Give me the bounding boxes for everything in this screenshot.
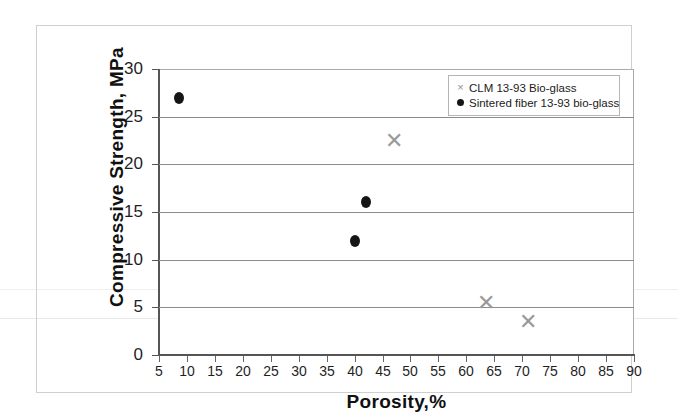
x-axis-tick-label: 65 bbox=[480, 363, 508, 379]
x-axis-tick-label: 55 bbox=[424, 363, 452, 379]
gridline bbox=[159, 307, 634, 308]
y-axis-tick bbox=[152, 212, 159, 213]
x-axis-tick-label: 15 bbox=[201, 363, 229, 379]
x-axis-tick-label: 70 bbox=[508, 363, 536, 379]
x-axis-tick bbox=[159, 356, 160, 362]
x-axis-tick-label: 20 bbox=[229, 363, 257, 379]
data-point-marker-dot bbox=[350, 235, 360, 247]
x-axis-tick bbox=[606, 356, 607, 362]
x-axis-tick-label: 90 bbox=[620, 363, 648, 379]
figure-frame: 0510152025305101520253035404550556065707… bbox=[36, 25, 632, 393]
y-axis-tick bbox=[152, 117, 159, 118]
x-axis-tick bbox=[522, 356, 523, 362]
data-point-marker-cross: ✕ bbox=[476, 291, 496, 315]
x-axis-tick bbox=[466, 356, 467, 362]
x-axis-tick bbox=[243, 356, 244, 362]
x-axis-tick-label: 25 bbox=[257, 363, 285, 379]
x-axis-title: Porosity,% bbox=[159, 391, 634, 413]
x-axis-line bbox=[159, 354, 635, 356]
gridline bbox=[159, 164, 634, 165]
x-axis-tick bbox=[410, 356, 411, 362]
legend-item-label: CLM 13-93 Bio-glass bbox=[467, 82, 576, 94]
x-axis-tick-label: 35 bbox=[313, 363, 341, 379]
x-axis-tick-label: 60 bbox=[452, 363, 480, 379]
x-axis-tick bbox=[438, 356, 439, 362]
x-axis-tick-label: 80 bbox=[564, 363, 592, 379]
gridline bbox=[159, 260, 634, 261]
x-axis-tick bbox=[494, 356, 495, 362]
x-axis-tick bbox=[327, 356, 328, 362]
x-axis-tick-label: 40 bbox=[341, 363, 369, 379]
x-axis-tick bbox=[299, 356, 300, 362]
x-axis-tick-label: 30 bbox=[285, 363, 313, 379]
cross-marker-icon: × bbox=[454, 82, 467, 93]
y-axis-tick bbox=[152, 355, 159, 356]
legend-item-sintered-fiber[interactable]: Sintered fiber 13-93 bio-glass bbox=[454, 95, 614, 110]
x-axis-tick bbox=[383, 356, 384, 362]
x-axis-tick bbox=[271, 356, 272, 362]
y-axis-title: Compressive Strength, MPa bbox=[106, 34, 128, 320]
x-axis-tick bbox=[578, 356, 579, 362]
legend-item-clm[interactable]: × CLM 13-93 Bio-glass bbox=[454, 80, 614, 95]
y-axis-tick bbox=[152, 307, 159, 308]
y-axis-tick-label: 0 bbox=[109, 345, 143, 365]
x-axis-tick bbox=[187, 356, 188, 362]
y-axis-tick bbox=[152, 164, 159, 165]
legend-item-label: Sintered fiber 13-93 bio-glass bbox=[467, 97, 619, 109]
dot-marker-icon bbox=[454, 99, 467, 106]
data-point-marker-cross: ✕ bbox=[384, 129, 404, 153]
data-point-marker-cross: ✕ bbox=[518, 310, 538, 334]
x-axis-tick bbox=[550, 356, 551, 362]
x-axis-tick bbox=[215, 356, 216, 362]
x-axis-tick-label: 50 bbox=[396, 363, 424, 379]
x-axis-tick-label: 45 bbox=[369, 363, 397, 379]
y-axis-tick bbox=[152, 260, 159, 261]
y-axis-tick bbox=[152, 69, 159, 70]
x-axis-tick-label: 85 bbox=[592, 363, 620, 379]
gridline bbox=[159, 212, 634, 213]
x-axis-tick-label: 75 bbox=[536, 363, 564, 379]
data-point-marker-dot bbox=[174, 92, 184, 104]
x-axis-tick-label: 5 bbox=[145, 363, 173, 379]
chart-legend: × CLM 13-93 Bio-glass Sintered fiber 13-… bbox=[448, 75, 620, 116]
gridline bbox=[159, 117, 634, 118]
x-axis-tick bbox=[355, 356, 356, 362]
x-axis-tick-label: 10 bbox=[173, 363, 201, 379]
x-axis-tick bbox=[634, 356, 635, 362]
